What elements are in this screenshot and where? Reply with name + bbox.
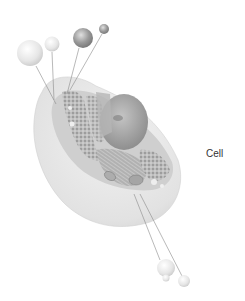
organelle-sphere-3 [73,28,93,48]
organelle-sphere-4 [99,24,109,34]
organelle-sphere-1 [17,40,43,66]
organelle-sphere-6 [178,275,190,287]
cell-label: Cell [206,148,223,159]
cell-body [34,77,181,227]
organelle-sphere-5 [157,259,175,282]
organelle-sphere-2 [45,37,60,52]
